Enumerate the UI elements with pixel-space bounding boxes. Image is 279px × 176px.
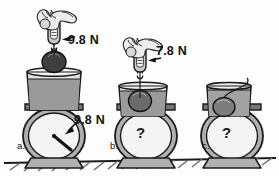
water-a: [28, 79, 79, 110]
panel-label-b: b.: [110, 140, 118, 151]
figure-canvas: 9.8 N 9.8 N 7.8 N a. b. c. ? ?: [0, 0, 279, 176]
panel-label-a: a.: [17, 140, 25, 151]
panel-c-artwork: [201, 78, 263, 168]
panel-label-c: c.: [202, 140, 210, 151]
force-label-a-scale: 9.8 N: [74, 113, 105, 127]
force-label-a-spring: 9.8 N: [68, 33, 99, 47]
force-label-b-spring: 7.8 N: [156, 44, 187, 58]
beaker-icon-b: [119, 82, 167, 116]
ball-icon-a: [42, 49, 66, 73]
arrow-icon-b-spring: [148, 58, 161, 63]
illustration-svg: [0, 0, 279, 176]
scale-unknown-c: ?: [222, 124, 231, 141]
hand-icon-a: [37, 10, 76, 30]
scale-unknown-b: ?: [136, 124, 145, 141]
beaker-icon-a: [27, 68, 81, 110]
beaker-icon-c: [207, 78, 251, 117]
